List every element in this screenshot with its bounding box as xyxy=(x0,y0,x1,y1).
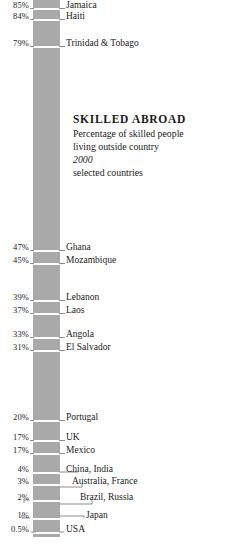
percentage-label: 79% xyxy=(0,39,29,48)
leader-line-left xyxy=(30,420,34,421)
leader-line-left xyxy=(30,46,34,47)
bar-tick xyxy=(33,472,60,474)
country-label: Australia, France xyxy=(72,477,137,487)
bar-tick xyxy=(33,337,60,339)
leader-line-right xyxy=(59,300,65,301)
leader-line-left xyxy=(30,313,34,314)
leader-line-right xyxy=(59,46,65,47)
percentage-label: 45% xyxy=(0,256,29,265)
chart-note: selected countries xyxy=(73,167,223,180)
country-label: Haiti xyxy=(66,12,85,22)
bar-tick xyxy=(33,453,60,455)
leader-line-left xyxy=(30,350,34,351)
percentage-label: 39% xyxy=(0,293,29,302)
chart-title: SKILLED ABROAD xyxy=(73,112,223,126)
country-label: Brazil, Russia xyxy=(80,493,133,503)
leader-line-left xyxy=(30,19,34,20)
percentage-label: 85% xyxy=(0,1,29,10)
bar-tick xyxy=(33,19,60,21)
bar-tick xyxy=(33,440,60,442)
country-label: China, India xyxy=(66,465,113,475)
chart-title-block: SKILLED ABROAD Percentage of skilled peo… xyxy=(73,112,223,180)
percentage-label: 3% xyxy=(0,477,29,486)
country-label: Ghana xyxy=(66,243,91,253)
country-label: Lebanon xyxy=(66,293,99,303)
percentage-label: 0.5% xyxy=(0,525,29,534)
country-label: Trinidad & Tobago xyxy=(66,39,139,49)
leader-line-right xyxy=(59,420,65,421)
percentage-label: 17% xyxy=(0,446,29,455)
percentage-label: 2% xyxy=(0,493,29,502)
country-label: USA xyxy=(66,525,85,535)
country-label: Mozambique xyxy=(66,256,116,266)
leader-line-left xyxy=(30,8,34,9)
percentage-label: 4% xyxy=(0,465,29,474)
country-label: Portugal xyxy=(66,413,98,423)
percentage-label: 20% xyxy=(0,413,29,422)
leader-line-right xyxy=(59,263,65,264)
country-label: Jamaica xyxy=(66,1,97,11)
country-label: Laos xyxy=(66,306,84,316)
bar-tick xyxy=(33,263,60,265)
bar-tick xyxy=(33,518,60,520)
country-label: Angola xyxy=(66,330,94,340)
percentage-label: 47% xyxy=(0,243,29,252)
leader-line-right xyxy=(59,250,65,251)
leader-line-right xyxy=(59,440,65,441)
country-label: UK xyxy=(66,433,80,443)
leader-line-right xyxy=(59,19,65,20)
bar-tick xyxy=(33,500,60,502)
leader-line-left xyxy=(30,250,34,251)
leader-line-left xyxy=(30,263,34,264)
bar-tick xyxy=(33,300,60,302)
leader-line-right xyxy=(59,8,65,9)
leader-line-japan-right xyxy=(59,516,84,518)
leader-line-left xyxy=(30,337,34,338)
bar-tick xyxy=(33,250,60,252)
bar-tick xyxy=(33,8,60,10)
chart-subtitle-line-1: Percentage of skilled people xyxy=(73,128,223,141)
chart-subtitle-line-2: living outside country xyxy=(73,141,223,154)
percentage-label: 37% xyxy=(0,306,29,315)
leader-line-right xyxy=(59,453,65,454)
leader-line-right xyxy=(59,337,65,338)
leader-line-right xyxy=(59,350,65,351)
leader-line-left xyxy=(30,300,34,301)
leader-line-right xyxy=(59,313,65,314)
bar-tick xyxy=(33,313,60,315)
bar-tick xyxy=(33,484,60,486)
percentage-label: 31% xyxy=(0,343,29,352)
bar-tick xyxy=(33,420,60,422)
percentage-label: 84% xyxy=(0,12,29,21)
leader-line-left xyxy=(30,440,34,441)
percentage-label: 1% xyxy=(0,511,29,520)
percentage-label: 33% xyxy=(0,330,29,339)
bar-tick xyxy=(33,46,60,48)
bar-tick xyxy=(33,532,60,534)
bar-tick xyxy=(33,350,60,352)
country-label: El Salvador xyxy=(66,343,111,353)
country-label: Mexico xyxy=(66,446,95,456)
percentage-bar-column xyxy=(33,0,60,537)
country-label: Japan xyxy=(86,511,108,521)
percentage-label: 17% xyxy=(0,433,29,442)
chart-year: 2000 xyxy=(73,154,223,167)
leader-line-left xyxy=(30,453,34,454)
